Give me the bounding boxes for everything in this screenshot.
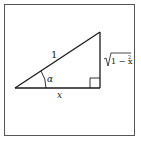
hypotenuse-label: 1 [51,49,57,60]
vertical-leg-label: 1 − x 2 [104,53,133,66]
base-label: x [57,90,62,100]
right-angle-marker [90,78,100,88]
exponent-text: 2 [128,54,131,60]
hypotenuse [15,32,100,88]
triangle-diagram: 1 α x 1 − x 2 [0,0,141,143]
angle-arc [41,71,46,88]
angle-label: α [47,74,53,84]
